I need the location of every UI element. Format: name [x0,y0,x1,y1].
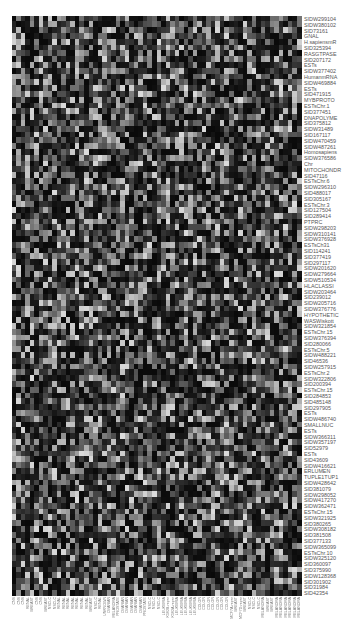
column-label: CNS [39,597,43,605]
column-label: RENAL [66,597,70,609]
column-label: NSCLC [252,597,256,609]
column-label: BREAST [89,597,93,611]
column-label: NSCLC [152,597,156,609]
column-label: BREAST [270,597,274,611]
column-label: MCF7D-repro [239,597,243,619]
column-label: NSCLC [157,597,161,609]
column-label: PROSTATE [116,597,120,616]
column-label: OVARIAN [125,597,129,613]
column-label: NSCLC [48,597,52,609]
column-label: CNS [12,597,16,605]
column-label: CNS [21,597,25,605]
column-label: RENAL [80,597,84,609]
column-label: BREAST [30,597,34,611]
column-label: MELANOMA [297,597,301,618]
row-labels: SIDW299104SIDW380102SID73161GNALH.sapien… [304,16,362,596]
heatmap-grid [12,16,302,596]
column-label: COLON [220,597,224,610]
column-label: LEUKEMIA [162,597,166,615]
column-label: BREAST [234,597,238,611]
column-label: MELANOMA [288,597,292,618]
column-label: COLON [225,597,229,610]
column-label: BREAST [243,597,247,611]
column-label: NSCLC [94,597,98,609]
column-labels: CNSCNSCNSRENALBREASTCNSCNSBREASTNSCLCNSC… [12,597,302,632]
column-label: RENAL [98,597,102,609]
column-label: K562A-repro [171,597,175,617]
column-label: OVARIAN [134,597,138,613]
column-label: MELANOMA [279,597,283,618]
column-label: LEUKEMIA [193,597,197,615]
column-label: K562B-repro [166,597,170,617]
column-label: OVARIAN [107,597,111,613]
heatmap-canvas [12,16,302,596]
column-label: RENAL [57,597,61,609]
column-label: MELANOMA [261,597,265,618]
column-label: CNS [17,597,21,605]
column-label: RENAL [75,597,79,609]
row-label: SID42354 [304,590,328,596]
column-label: RENAL [85,597,89,609]
column-label: PROSTATE [143,597,147,616]
column-label: LEUKEMIA [184,597,188,615]
column-label: COLON [211,597,215,610]
column-label: MCF7A-repro [230,597,234,619]
column-label: LEUKEMIA [175,597,179,615]
column-label: COLON [202,597,206,610]
column-label: RENAL [26,597,30,609]
